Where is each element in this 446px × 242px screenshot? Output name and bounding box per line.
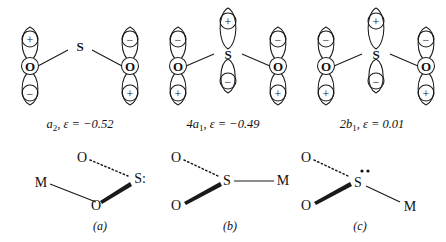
- sign-top-left-a2: +: [27, 33, 34, 47]
- atom-label-right-a2: O: [125, 59, 135, 74]
- oxygen-top-label-c: O: [301, 150, 311, 165]
- sign-bottom-left-4a1: +: [175, 87, 182, 101]
- dotted-bond-c: [314, 160, 348, 176]
- atom-label-center-4a1: S: [224, 47, 231, 62]
- caption-a2: a2, ε = −0.52: [20, 117, 140, 133]
- orbital-svg-2b1: O − + S + − O: [296, 8, 446, 112]
- sign-bottom-center-4a1: −: [225, 75, 232, 89]
- right-oxygen-orbital-2b1: O − +: [418, 27, 435, 105]
- structure-c: O O S M: [292, 146, 437, 218]
- atom-label-left-4a1: O: [173, 59, 183, 74]
- atom-label-center-a2: S: [76, 39, 83, 54]
- sign-top-left-2b1: −: [323, 33, 330, 47]
- structure-a: O M O S:: [30, 146, 170, 218]
- sign-top-right-a2: −: [127, 33, 134, 47]
- atom-label-right-2b1: O: [421, 59, 431, 74]
- caption-2b1: 2b1, ε = 0.01: [312, 117, 432, 133]
- atom-label-right-4a1: O: [273, 59, 283, 74]
- structure-b: O O S M: [162, 146, 302, 218]
- atom-label-left-2b1: O: [321, 59, 331, 74]
- sign-bottom-center-2b1: −: [373, 75, 380, 89]
- oxygen-bottom-label-b: O: [171, 198, 181, 213]
- right-oxygen-orbital-4a1: O − +: [270, 27, 287, 105]
- figure-container: O + − S O − + a2, ε =: [0, 0, 446, 242]
- caption-4a1: 4a1, ε = −0.49: [163, 117, 283, 133]
- metal-label-c: M: [404, 199, 417, 214]
- sulfur-metal-bond-c: [366, 186, 400, 202]
- sublabel-c: (c): [340, 219, 380, 234]
- center-sulfur-orbital-4a1: S + −: [220, 8, 236, 93]
- left-oxygen-orbital-2b1: O − +: [318, 27, 335, 105]
- structure-svg-c: O O S M: [292, 146, 437, 218]
- sign-bottom-right-2b1: +: [423, 87, 430, 101]
- lone-pair-dot-right-c: [366, 169, 369, 172]
- caption-2b1-energy: , ε = 0.01: [357, 117, 405, 131]
- sulfur-label-b: S: [223, 173, 231, 188]
- oxygen-bottom-label-a: O: [91, 198, 101, 213]
- dotted-bond-a: [90, 160, 128, 176]
- caption-2b1-symmetry: 2b: [340, 117, 353, 131]
- orbital-diagram-4a1: O − + S + − O: [148, 8, 298, 112]
- caption-a2-energy: , ε = −0.52: [57, 117, 113, 131]
- bond-left-4a1: [186, 54, 214, 66]
- sulfur-label-a: S:: [134, 171, 146, 186]
- orbital-diagram-2b1: O − + S + − O: [296, 8, 446, 112]
- wedge-bond-b: [184, 182, 222, 205]
- oxygen-bottom-label-c: O: [301, 198, 311, 213]
- metal-label-a: M: [35, 175, 48, 190]
- bond-left-2b1: [334, 54, 362, 66]
- sign-top-center-2b1: +: [373, 15, 380, 29]
- metal-oxygen-bond-a: [50, 184, 96, 202]
- sign-top-left-4a1: −: [175, 33, 182, 47]
- sign-top-center-4a1: +: [225, 15, 232, 29]
- metal-label-b: M: [277, 173, 290, 188]
- bond-right-a2: [92, 50, 122, 66]
- structure-svg-b: O O S M: [162, 146, 302, 218]
- caption-4a1-symmetry: 4a: [186, 117, 199, 131]
- sign-top-right-2b1: −: [423, 33, 430, 47]
- bond-left-a2: [38, 50, 68, 66]
- lone-pair-dot-left-c: [360, 169, 363, 172]
- atom-label-left-a2: O: [25, 59, 35, 74]
- bond-right-4a1: [242, 54, 270, 66]
- sublabel-a: (a): [80, 219, 120, 234]
- atom-label-center-2b1: S: [372, 47, 379, 62]
- sign-bottom-right-4a1: +: [275, 87, 282, 101]
- orbital-svg-4a1: O − + S + − O: [148, 8, 298, 112]
- sign-bottom-left-a2: −: [27, 87, 34, 101]
- oxygen-top-label-a: O: [77, 150, 87, 165]
- sublabel-b: (b): [210, 219, 250, 234]
- caption-4a1-energy: , ε = −0.49: [203, 117, 259, 131]
- sulfur-label-c: S: [354, 175, 362, 190]
- left-oxygen-orbital-4a1: O − +: [170, 27, 187, 105]
- orbital-svg-a2: O + − S O − +: [0, 8, 150, 112]
- sign-bottom-left-2b1: +: [323, 87, 330, 101]
- orbital-diagram-a2: O + − S O − +: [0, 8, 150, 112]
- sign-bottom-right-a2: +: [127, 87, 134, 101]
- oxygen-top-label-b: O: [171, 150, 181, 165]
- dotted-bond-b: [184, 160, 218, 176]
- wedge-bond-a: [100, 182, 132, 204]
- center-sulfur-a2: S: [76, 39, 83, 54]
- bond-right-2b1: [390, 54, 418, 66]
- structure-svg-a: O M O S:: [30, 146, 170, 218]
- center-sulfur-orbital-2b1: S + −: [368, 8, 384, 93]
- wedge-bond-c: [314, 182, 352, 205]
- right-oxygen-orbital-a2: O − +: [122, 27, 139, 105]
- sign-top-right-4a1: −: [275, 33, 282, 47]
- left-oxygen-orbital-a2: O + −: [22, 27, 39, 105]
